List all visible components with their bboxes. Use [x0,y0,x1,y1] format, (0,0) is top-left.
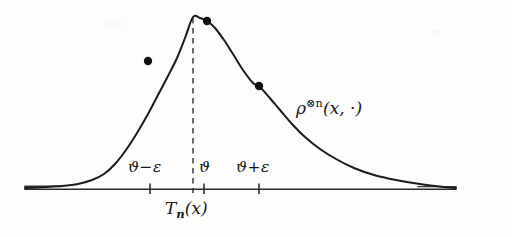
epsilon-glyph: ε [261,158,270,176]
estimator-subscript-glyph: n [176,207,184,221]
label-estimator-tn-x: Tn(x) [165,200,208,221]
plus-glyph: + [247,158,260,176]
estimator-main-glyph: T [165,198,176,218]
axis-group [25,186,456,189]
figure-root: ˜˜˜ ˜˜ ϑ−ε ϑ ϑ+ε Tn(x) ρ⊗n(x, ·) [0,0,512,237]
tensor-power-superscript: ⊗n [306,97,323,110]
rho-glyph: ρ [296,98,306,118]
theta-glyph: ϑ [236,158,247,176]
label-theta-minus-epsilon: ϑ−ε [128,160,162,176]
theta-glyph: ϑ [128,158,139,176]
curve-marker-group [144,17,263,90]
estimator-argument-glyph: (x) [185,198,208,218]
marker-right-flank-point [255,82,263,90]
label-theta: ϑ [199,160,210,176]
density-plot-svg [0,0,512,237]
label-density-rho-tensor-n: ρ⊗n(x, ·) [296,98,362,117]
label-theta-plus-epsilon: ϑ+ε [236,160,270,176]
marker-left-flank-point [144,57,152,65]
minus-glyph: − [139,158,152,176]
density-argument-glyph: (x, ·) [323,98,362,118]
marker-near-peak-point [203,17,211,25]
epsilon-glyph: ε [153,158,162,176]
